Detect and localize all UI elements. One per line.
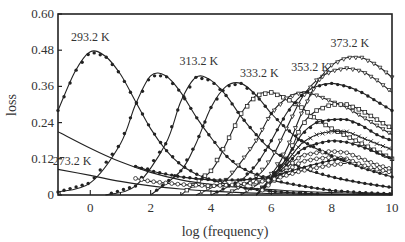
- data-point-marker: [134, 165, 137, 168]
- data-point-marker: [321, 165, 325, 169]
- data-point-marker: [351, 68, 355, 72]
- data-point-marker: [310, 186, 313, 189]
- data-point-marker: [213, 141, 216, 144]
- data-point-marker: [158, 150, 161, 153]
- data-point-marker: [303, 131, 306, 134]
- data-point-marker: [248, 148, 252, 152]
- data-point-marker: [333, 176, 336, 179]
- data-point-marker: [117, 145, 120, 148]
- data-point-marker: [185, 158, 188, 161]
- data-point-marker: [270, 139, 273, 142]
- data-point-marker: [315, 166, 319, 170]
- data-point-marker: [255, 177, 258, 180]
- data-point-marker: [206, 78, 209, 81]
- data-point-marker: [165, 149, 168, 152]
- x-tick-label: 6: [268, 200, 275, 215]
- y-tick-label: 0.36: [31, 78, 54, 93]
- data-point-marker: [86, 182, 89, 185]
- data-point-marker: [309, 152, 313, 156]
- data-point-marker: [369, 183, 372, 186]
- data-point-marker: [354, 88, 357, 91]
- data-point-marker: [297, 151, 300, 154]
- data-point-marker: [231, 160, 234, 163]
- data-point-marker: [224, 178, 227, 181]
- data-point-marker: [122, 188, 125, 191]
- data-point-marker: [387, 185, 390, 188]
- data-point-marker: [381, 121, 385, 125]
- data-point-marker: [357, 69, 361, 73]
- data-point-marker: [324, 123, 328, 127]
- data-point-marker: [248, 126, 251, 129]
- data-point-marker: [209, 169, 213, 173]
- temperature-label: 293.2 K: [71, 30, 110, 44]
- data-point-marker: [288, 98, 292, 102]
- data-point-marker: [364, 191, 367, 194]
- series-line: [105, 76, 392, 195]
- data-point-marker: [351, 179, 354, 182]
- data-point-marker: [336, 61, 340, 65]
- data-point-marker: [218, 178, 221, 181]
- data-point-marker: [215, 158, 219, 162]
- data-point-marker: [255, 133, 258, 136]
- data-point-marker: [375, 183, 378, 186]
- data-point-marker: [345, 178, 348, 181]
- data-point-marker: [339, 150, 343, 154]
- data-point-marker: [315, 157, 319, 161]
- data-point-marker: [345, 118, 348, 121]
- temperature-label: 373.2 K: [330, 36, 369, 50]
- data-point-marker: [200, 77, 203, 80]
- data-point-marker: [369, 166, 373, 170]
- data-point-marker: [171, 82, 174, 85]
- data-point-marker: [381, 165, 385, 169]
- data-point-marker: [146, 179, 150, 183]
- data-point-marker: [195, 173, 198, 176]
- y-axis-title: loss: [4, 94, 19, 116]
- data-point-marker: [375, 118, 379, 122]
- data-point-marker: [194, 177, 197, 180]
- data-point-marker: [215, 190, 218, 193]
- data-point-marker: [369, 75, 373, 79]
- data-point-marker: [328, 188, 331, 191]
- data-point-marker: [358, 191, 361, 194]
- data-point-marker: [316, 187, 319, 190]
- data-point-marker: [381, 135, 384, 138]
- data-point-marker: [182, 176, 185, 179]
- y-tick-label: 0.48: [31, 42, 54, 57]
- data-point-marker: [248, 177, 251, 180]
- data-point-marker: [348, 56, 352, 60]
- data-point-marker: [263, 92, 267, 96]
- data-point-marker: [327, 164, 331, 168]
- data-point-marker: [322, 188, 325, 191]
- data-point-marker: [80, 184, 83, 187]
- data-point-marker: [290, 153, 294, 157]
- data-point-marker: [303, 121, 307, 125]
- data-point-marker: [176, 108, 179, 111]
- data-point-marker: [288, 129, 291, 132]
- data-point-marker: [152, 159, 155, 162]
- data-point-marker: [363, 182, 366, 185]
- data-point-marker: [182, 95, 185, 98]
- data-point-marker: [333, 158, 336, 161]
- data-point-marker: [375, 151, 378, 154]
- data-point-marker: [345, 151, 349, 155]
- data-point-marker: [333, 139, 336, 142]
- x-tick-label: 10: [386, 200, 399, 215]
- data-point-marker: [352, 190, 355, 193]
- data-point-marker: [291, 157, 294, 160]
- data-point-marker: [375, 133, 378, 136]
- data-point-marker: [309, 144, 312, 147]
- data-point-marker: [378, 102, 381, 105]
- data-point-marker: [116, 190, 119, 193]
- x-tick-label: 0: [87, 200, 94, 215]
- data-point-marker: [164, 142, 167, 145]
- data-point-marker: [351, 159, 355, 163]
- data-point-marker: [306, 111, 310, 115]
- data-point-marker: [342, 84, 345, 87]
- data-point-marker: [363, 146, 366, 149]
- data-point-marker: [297, 170, 301, 174]
- data-point-marker: [339, 162, 343, 166]
- data-point-marker: [197, 135, 200, 138]
- data-point-marker: [117, 70, 120, 73]
- data-point-marker: [152, 170, 155, 173]
- data-point-marker: [292, 191, 295, 194]
